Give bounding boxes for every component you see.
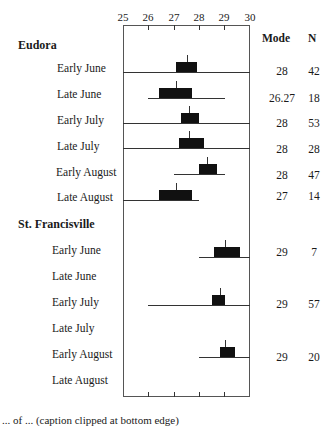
iqr-box xyxy=(212,295,225,305)
row-label: Late August xyxy=(52,374,108,386)
whisker-line xyxy=(199,257,250,258)
group-label-eudora: Eudora xyxy=(18,38,57,53)
x-tick-label: 28 xyxy=(194,11,205,23)
median-tick xyxy=(189,106,190,113)
median-tick xyxy=(207,157,208,164)
x-tick-label: 25 xyxy=(118,11,129,23)
iqr-box xyxy=(220,347,235,357)
n-value: 7 xyxy=(311,246,317,258)
mode-value: 28 xyxy=(276,65,288,77)
row-label: Late June xyxy=(57,88,101,100)
n-value: 57 xyxy=(308,298,320,310)
row-label: Late July xyxy=(57,140,99,152)
n-value: 18 xyxy=(308,92,320,104)
mode-value: 26.27 xyxy=(269,92,295,104)
median-tick xyxy=(189,131,190,138)
iqr-box xyxy=(176,62,196,72)
iqr-box xyxy=(159,88,192,98)
mode-value: 28 xyxy=(276,169,288,181)
group-label-st-francisville: St. Francisville xyxy=(18,217,95,232)
n-column-header: N xyxy=(308,32,316,44)
n-value: 20 xyxy=(308,351,320,363)
row-label: Early August xyxy=(56,166,116,178)
row-label: Late July xyxy=(52,322,94,334)
iqr-box xyxy=(159,190,192,200)
bottom-tick xyxy=(224,392,225,397)
iqr-box xyxy=(199,164,217,174)
whisker-line xyxy=(123,200,199,201)
bottom-tick xyxy=(148,392,149,397)
iqr-box xyxy=(181,113,199,123)
bottom-tick xyxy=(199,392,200,397)
n-value: 53 xyxy=(308,117,320,129)
n-value: 47 xyxy=(308,169,320,181)
x-tick-label: 26 xyxy=(143,11,154,23)
x-tick-label: 29 xyxy=(219,11,230,23)
row-label: Early July xyxy=(57,114,104,126)
median-tick xyxy=(176,81,177,88)
x-tick-label: 27 xyxy=(169,11,180,23)
iqr-box xyxy=(179,138,204,148)
whisker-line xyxy=(123,72,250,73)
x-tick-label: 30 xyxy=(245,11,256,23)
mode-value: 29 xyxy=(276,246,288,258)
mode-value: 28 xyxy=(276,143,288,155)
mode-value: 29 xyxy=(276,351,288,363)
plot-frame xyxy=(123,25,250,397)
top-tick xyxy=(199,25,200,30)
median-tick xyxy=(220,288,221,295)
median-tick xyxy=(225,240,226,247)
mode-value: 29 xyxy=(276,298,288,310)
mode-value: 28 xyxy=(276,117,288,129)
top-tick xyxy=(224,25,225,30)
row-label: Early July xyxy=(52,296,99,308)
top-tick xyxy=(174,25,175,30)
median-tick xyxy=(176,183,177,190)
n-value: 28 xyxy=(308,143,320,155)
whisker-line xyxy=(174,174,225,175)
row-label: Early June xyxy=(57,62,106,74)
figure-caption: ... of ... (caption clipped at bottom ed… xyxy=(2,414,179,426)
bottom-tick xyxy=(174,392,175,397)
whisker-line xyxy=(199,357,250,358)
whisker-line xyxy=(148,305,250,306)
iqr-box xyxy=(214,247,239,257)
whisker-line xyxy=(123,123,250,124)
n-value: 14 xyxy=(308,190,320,202)
n-value: 42 xyxy=(308,65,320,77)
row-label: Early August xyxy=(52,348,112,360)
whisker-line xyxy=(148,98,224,99)
row-label: Late June xyxy=(52,270,96,282)
mode-column-header: Mode xyxy=(262,32,290,44)
top-tick xyxy=(148,25,149,30)
whisker-line xyxy=(123,148,250,149)
row-label: Late August xyxy=(57,191,113,203)
row-label: Early June xyxy=(52,244,101,256)
median-tick xyxy=(187,55,188,62)
median-tick xyxy=(225,340,226,347)
mode-value: 27 xyxy=(276,190,288,202)
